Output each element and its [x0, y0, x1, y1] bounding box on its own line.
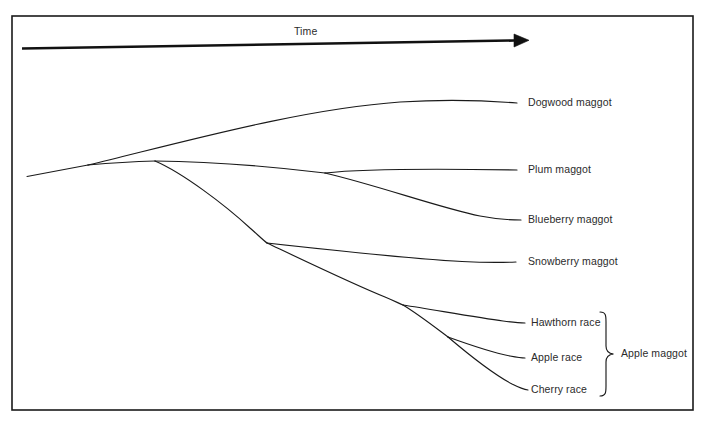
taxon-label-blueberry: Blueberry maggot	[528, 214, 612, 225]
taxon-label-apple: Apple race	[531, 352, 582, 363]
apple-maggot-brace	[600, 312, 614, 396]
time-axis-label: Time	[294, 26, 317, 37]
taxon-label-snowberry: Snowberry maggot	[528, 256, 618, 267]
taxon-label-plum: Plum maggot	[528, 164, 591, 175]
phylogenetic-tree-figure: Time Dogwood maggot Plum maggot Blueberr…	[0, 0, 705, 430]
branch-to-cherry	[448, 337, 528, 390]
branch-to-dogwood	[88, 100, 517, 165]
branch-to-apple	[448, 337, 525, 358]
branch-to-plum	[325, 169, 517, 173]
branch-to-blueberry	[325, 173, 521, 220]
taxon-label-dogwood: Dogwood maggot	[528, 97, 612, 108]
branch-root-stem	[27, 165, 88, 177]
taxon-label-hawthorn: Hawthorn race	[531, 317, 601, 328]
branch-to-plumnode	[155, 161, 325, 173]
time-axis-arrow	[22, 34, 529, 49]
branch-to-hawthorn	[403, 305, 525, 323]
branch-to-snownode	[155, 161, 267, 243]
branch-to-cherrynode	[403, 305, 448, 337]
branch-to-snowberry	[267, 243, 516, 262]
taxon-label-cherry: Cherry race	[531, 384, 587, 395]
group-label-apple-maggot: Apple maggot	[621, 348, 687, 359]
branch-to-hawnode	[267, 243, 403, 305]
